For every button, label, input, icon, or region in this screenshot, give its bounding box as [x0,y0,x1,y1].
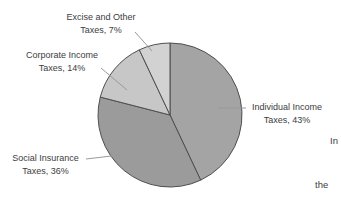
label-excise-line1: Excise and Other [51,11,151,24]
label-excise-other-taxes: Excise and Other Taxes, 7% [51,11,151,37]
pie-slices-group [98,43,242,187]
label-individual-line2: Taxes, 43% [237,114,337,127]
label-corporate-line1: Corporate Income [12,49,112,62]
label-excise-line2: Taxes, 7% [51,24,151,37]
label-corporate-income-taxes: Corporate Income Taxes, 14% [12,49,112,75]
label-individual-income-taxes: Individual Income Taxes, 43% [237,101,337,127]
text-fragment-the: the [315,179,328,190]
label-individual-line1: Individual Income [237,101,337,114]
pie-chart-figure: Excise and Other Taxes, 7% Corporate Inc… [0,0,341,207]
label-social-line1: Social Insurance [0,152,91,165]
label-corporate-line2: Taxes, 14% [12,62,112,75]
label-social-insurance-taxes: Social Insurance Taxes, 36% [0,152,91,178]
text-fragment-in: In [330,135,338,146]
label-social-line2: Taxes, 36% [0,165,91,178]
